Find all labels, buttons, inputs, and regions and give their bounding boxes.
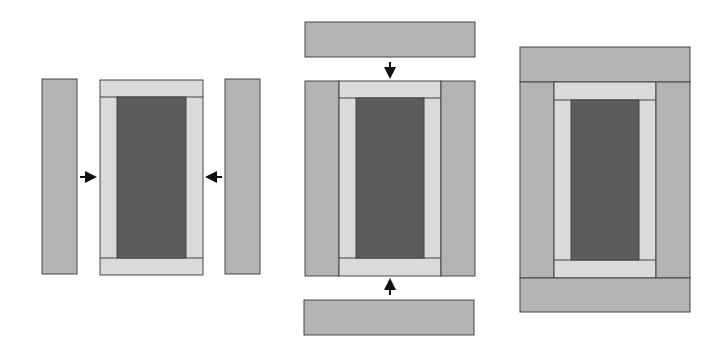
step-2-right-strip bbox=[441, 81, 475, 276]
step-2-bottom-strip bbox=[304, 300, 474, 335]
step-3-group bbox=[520, 47, 690, 312]
step-2-assembled-middle bbox=[305, 81, 475, 276]
step-2-left-strip bbox=[305, 81, 339, 276]
step-1-framed-center bbox=[100, 80, 203, 275]
step-2-group bbox=[304, 22, 475, 335]
step-3-bottom-strip bbox=[520, 278, 690, 312]
step-3-right-strip bbox=[656, 82, 690, 278]
step-1-right-strip bbox=[225, 79, 260, 274]
step-3-center-block bbox=[571, 100, 639, 260]
step-3-left-strip bbox=[520, 82, 554, 278]
step-2-center-block bbox=[356, 98, 424, 258]
step-1-group bbox=[42, 79, 260, 275]
assembly-diagram bbox=[0, 0, 722, 353]
step-2-top-strip bbox=[305, 22, 475, 57]
step-3-top-strip bbox=[520, 47, 690, 82]
step-1-left-strip bbox=[42, 79, 77, 274]
step-1-center-block bbox=[117, 97, 186, 258]
